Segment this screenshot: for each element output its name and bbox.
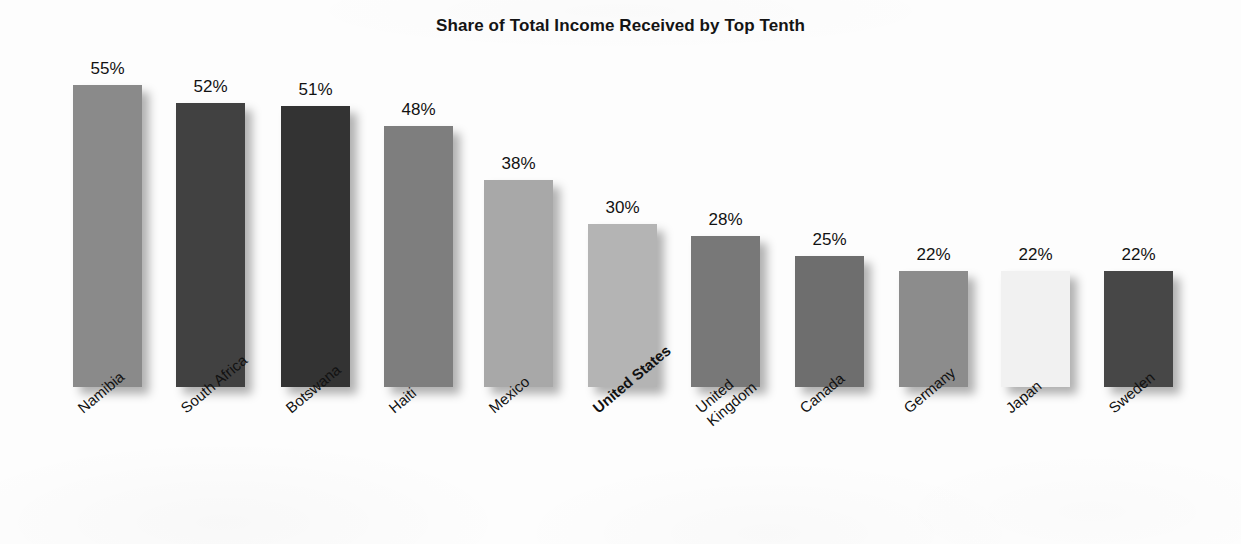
bar[interactable] (1001, 271, 1070, 387)
bar-value-label: 38% (484, 154, 553, 174)
bar-value-label: 22% (1001, 245, 1070, 265)
chart-title: Share of Total Income Received by Top Te… (0, 16, 1241, 36)
bar[interactable] (691, 236, 760, 387)
bar-value-label: 22% (899, 245, 968, 265)
bar[interactable] (176, 103, 245, 387)
bar-value-label: 55% (73, 59, 142, 79)
bar-chart: Share of Total Income Received by Top Te… (0, 0, 1241, 544)
bar-value-label: 30% (588, 198, 657, 218)
bar-value-label: 22% (1104, 245, 1173, 265)
bar[interactable] (73, 85, 142, 387)
bar[interactable] (1104, 271, 1173, 387)
bar-value-label: 48% (384, 100, 453, 120)
bar[interactable] (484, 180, 553, 387)
bar-value-label: 51% (281, 80, 350, 100)
bar[interactable] (281, 106, 350, 387)
bar[interactable] (795, 256, 864, 387)
bar-value-label: 25% (795, 230, 864, 250)
bar-value-label: 52% (176, 77, 245, 97)
bar[interactable] (384, 126, 453, 387)
plot-area: 55%Namibia52%South Africa51%Botswana48%H… (0, 0, 1241, 544)
bar[interactable] (899, 271, 968, 387)
bar-value-label: 28% (691, 210, 760, 230)
